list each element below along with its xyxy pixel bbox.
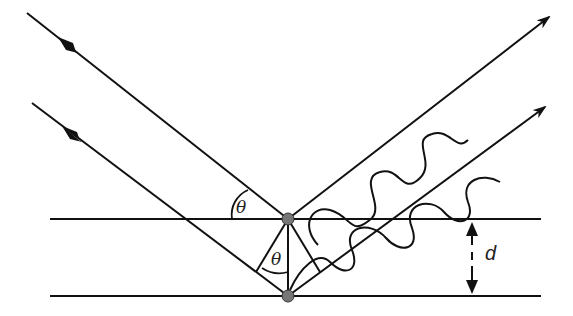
spacing-label: d <box>485 242 496 265</box>
atom-top <box>282 213 294 225</box>
wave-upper <box>309 133 468 245</box>
diagram-graphic <box>0 0 573 316</box>
atom-bottom <box>282 290 294 302</box>
spacing-arrow-down-icon <box>466 280 478 294</box>
path-diff-right <box>288 219 320 272</box>
reflected-ray-lower <box>288 107 545 296</box>
theta-label-inner: θ <box>271 249 281 269</box>
bragg-diagram: θ θ d <box>0 0 573 316</box>
theta-label-top: θ <box>236 197 246 217</box>
reflected-ray-upper <box>288 17 549 219</box>
spacing-arrow-up-icon <box>466 222 478 236</box>
